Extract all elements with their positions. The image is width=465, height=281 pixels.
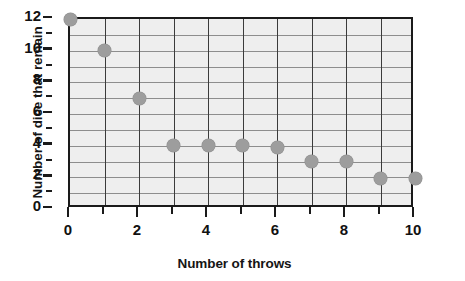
y-axis-tick-major — [43, 142, 52, 145]
x-axis-tick-label: 10 — [388, 221, 438, 238]
gridline-vertical — [277, 19, 278, 205]
data-point — [271, 141, 284, 154]
gridline-horizontal — [70, 193, 411, 194]
gridline-vertical — [346, 19, 347, 205]
x-axis-tick-major — [412, 207, 415, 217]
scatter-chart-figure: Number of dice that remain Number of thr… — [0, 0, 465, 281]
gridline-horizontal — [70, 35, 411, 36]
gridline-vertical — [208, 19, 209, 205]
y-axis-tick-label: 6 — [1, 102, 41, 119]
data-point — [305, 155, 318, 168]
y-axis-tick-minor — [46, 190, 52, 192]
y-axis-tick-major — [43, 47, 52, 50]
x-axis-tick-label: 6 — [250, 221, 300, 238]
y-axis-tick-label: 0 — [1, 197, 41, 214]
data-point — [133, 92, 146, 105]
gridline-horizontal — [70, 162, 411, 163]
x-axis-tick-minor — [102, 207, 104, 214]
x-axis-title: Number of throws — [62, 256, 407, 271]
gridline-vertical — [243, 19, 244, 205]
y-axis-tick-minor — [46, 127, 52, 129]
x-axis-tick-minor — [171, 207, 173, 214]
gridline-horizontal — [70, 177, 411, 178]
y-axis-tick-label: 8 — [1, 70, 41, 87]
gridline-horizontal — [70, 67, 411, 68]
x-axis-tick-major — [343, 207, 346, 217]
x-axis-tick-major — [274, 207, 277, 217]
gridline-vertical — [139, 19, 140, 205]
gridline-horizontal — [70, 51, 411, 52]
gridline-horizontal — [70, 130, 411, 131]
x-axis-tick-minor — [240, 207, 242, 214]
x-axis-tick-major — [67, 207, 70, 217]
x-axis-tick-major — [136, 207, 139, 217]
y-axis-tick-label: 12 — [1, 7, 41, 24]
data-point — [340, 155, 353, 168]
data-point — [374, 172, 387, 185]
y-axis-tick-minor — [46, 32, 52, 34]
y-axis-tick-label: 4 — [1, 134, 41, 151]
gridline-horizontal — [70, 114, 411, 115]
data-point — [236, 139, 249, 152]
plot-area — [68, 17, 413, 207]
y-axis-tick-label: 10 — [1, 39, 41, 56]
x-axis-tick-minor — [309, 207, 311, 214]
x-axis-tick-label: 4 — [181, 221, 231, 238]
data-point — [409, 172, 422, 185]
y-axis-tick-major — [43, 174, 52, 177]
y-axis-tick-major — [43, 16, 52, 19]
y-axis-tick-label: 2 — [1, 165, 41, 182]
y-axis-tick-minor — [46, 159, 52, 161]
gridline-horizontal — [70, 98, 411, 99]
data-point — [202, 139, 215, 152]
data-point — [64, 13, 77, 26]
x-axis-tick-label: 2 — [112, 221, 162, 238]
data-point — [167, 139, 180, 152]
y-axis-tick-minor — [46, 64, 52, 66]
gridline-vertical — [174, 19, 175, 205]
x-axis-tick-label: 0 — [43, 221, 93, 238]
y-axis-tick-major — [43, 111, 52, 114]
data-point — [98, 44, 111, 57]
x-axis-tick-major — [205, 207, 208, 217]
x-axis-tick-minor — [378, 207, 380, 214]
y-axis-tick-minor — [46, 95, 52, 97]
x-axis-tick-label: 8 — [319, 221, 369, 238]
y-axis-tick-major — [43, 79, 52, 82]
gridline-vertical — [312, 19, 313, 205]
gridline-horizontal — [70, 82, 411, 83]
y-axis-tick-major — [43, 206, 52, 209]
